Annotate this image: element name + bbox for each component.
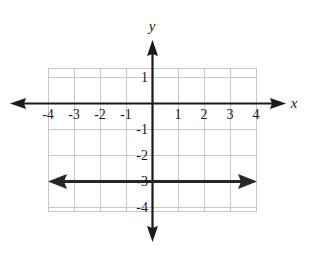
x-tick-label--2: -2 [94,107,106,122]
y-axis-arrow-up-icon [147,40,158,56]
y-axis-label: y [147,18,156,34]
y-axis-arrow-down-icon [147,226,158,242]
x-tick-label--1: -1 [120,107,132,122]
y-tick-label--1: -1 [136,122,148,137]
y-tick-label--3: -3 [136,174,148,189]
coordinate-plane: x y -4 -3 -2 -1 1 2 3 4 1 -1 -2 -3 -4 [0,0,316,261]
x-tick-label--3: -3 [68,107,80,122]
graph-figure: x y -4 -3 -2 -1 1 2 3 4 1 -1 -2 -3 -4 [0,0,316,261]
y-tick-label--2: -2 [136,148,148,163]
x-tick-label-4: 4 [253,107,260,122]
x-axis-label: x [290,95,298,111]
x-tick-label-2: 2 [201,107,208,122]
x-axis-arrow-right-icon [270,98,286,109]
y-tick-label--4: -4 [136,200,148,215]
x-tick-label-3: 3 [227,107,234,122]
x-tick-label--4: -4 [42,107,54,122]
y-tick-label-1: 1 [141,70,148,85]
x-axis-arrow-left-icon [10,98,26,109]
x-tick-label-1: 1 [175,107,182,122]
